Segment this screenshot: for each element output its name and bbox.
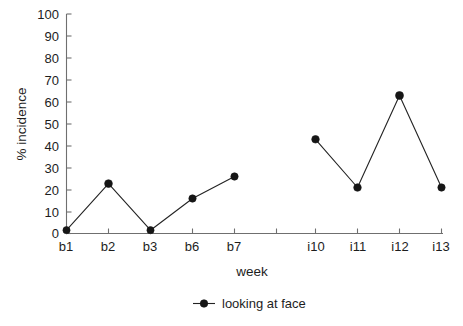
- y-tick-label-40: 40: [45, 139, 59, 154]
- y-tick-label-70: 70: [45, 73, 59, 88]
- x-tick-label-b1: b1: [59, 239, 73, 254]
- data-point-i10: [312, 136, 320, 144]
- legend-label-looking-at-face: looking at face: [222, 296, 306, 311]
- y-tick-label-50: 50: [45, 117, 59, 132]
- x-tick-label-i10: i10: [307, 239, 324, 254]
- legend-point-marker: [200, 300, 208, 308]
- y-tick-label-100: 100: [37, 7, 59, 22]
- data-point-i13: [438, 184, 445, 191]
- x-tick-marks: [67, 229, 442, 234]
- y-tick-label-30: 30: [45, 161, 59, 176]
- series-markers: [63, 92, 445, 234]
- y-tick-label-60: 60: [45, 95, 59, 110]
- series-line-segment-baseline: [67, 177, 235, 231]
- data-point-b1: [63, 227, 70, 234]
- x-tick-label-i12: i12: [391, 239, 408, 254]
- y-tick-marks: [67, 14, 72, 234]
- x-axis-title: week: [235, 264, 268, 279]
- chart-legend: looking at face: [193, 296, 306, 311]
- x-tick-label-b7: b7: [227, 239, 241, 254]
- data-point-b7: [231, 173, 238, 180]
- x-tick-label-b6: b6: [185, 239, 199, 254]
- data-point-i11: [354, 184, 362, 192]
- data-point-i12: [396, 92, 404, 100]
- y-tick-label-20: 20: [45, 183, 59, 198]
- x-tick-label-i13: i13: [432, 239, 449, 254]
- series-line-segment-intervention: [316, 96, 442, 188]
- y-tick-label-90: 90: [45, 29, 59, 44]
- data-point-b2: [105, 180, 113, 188]
- x-tick-label-i11: i11: [350, 239, 366, 254]
- x-tick-label-b3: b3: [143, 239, 157, 254]
- chart-figure: % incidence 100 90 80 70 60 50 40 30 20 …: [0, 0, 463, 326]
- data-point-b6: [189, 195, 196, 202]
- x-tick-label-b2: b2: [101, 239, 115, 254]
- y-axis-title: % incidence: [14, 88, 29, 161]
- incidence-line-chart: % incidence 100 90 80 70 60 50 40 30 20 …: [0, 0, 463, 326]
- data-point-b3: [147, 227, 154, 234]
- y-tick-label-80: 80: [45, 51, 59, 66]
- y-tick-label-10: 10: [45, 205, 59, 220]
